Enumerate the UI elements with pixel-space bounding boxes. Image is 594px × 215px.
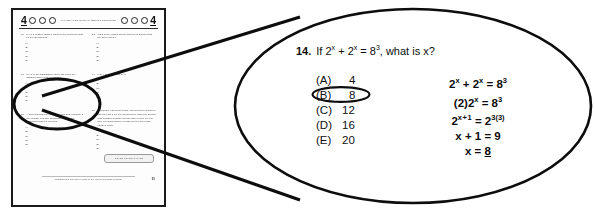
question-text: A bag contains only red, white, and blue…: [26, 113, 85, 124]
copyright-notice: Unauthorized copying or reuse of any par…: [42, 176, 135, 181]
final-answer-value: 8: [485, 145, 491, 157]
question-columns: 11. If x is a positive integer, which of…: [19, 33, 158, 172]
header-circle-icon: [131, 17, 138, 24]
work-line-5-answer: x = 8: [398, 144, 558, 159]
worked-solution: 2x + 2x = 83 (2)2x = 83 2x + 1 = 23(3) x…: [398, 73, 560, 159]
magnified-question-panel: 14.If 2x + 2x = 83, what is x? (A) 4 (B)…: [290, 44, 560, 169]
question-choices: (A) (B) (C) (D) (E): [21, 42, 85, 64]
question-choices: (A) (B) (C) (D) (E): [92, 42, 156, 64]
question-text-pre: If 2: [316, 45, 331, 57]
answer-choice-a[interactable]: (A) 4: [316, 73, 398, 88]
question-number: 13.: [21, 73, 24, 77]
question-block: 16. A company offers two plans. The firs…: [92, 109, 156, 162]
test-page-content: 4 MATHEMATICS LEVEL IC TESTING CONTINUED…: [13, 10, 164, 205]
choice-value: 4: [342, 73, 355, 88]
question-number: 14.: [92, 73, 95, 77]
page-number: 51: [152, 177, 155, 181]
header-circle-icon: [49, 17, 56, 24]
header-circle-icon: [39, 17, 46, 24]
choice-letter: (B): [316, 88, 342, 103]
page-footer: Unauthorized copying or reuse of any par…: [19, 176, 158, 181]
go-on-to-next-page-label: GO ON TO NEXT PAGE: [104, 154, 154, 163]
answer-area: (A) 4 (B) 8 (C) 12 (D) 16 (E) 20: [290, 73, 560, 159]
question-block: 11. If x is a positive integer, which of…: [21, 33, 85, 64]
screenshot-root: 4 MATHEMATICS LEVEL IC TESTING CONTINUED…: [0, 0, 594, 215]
question-choices: (A) (B) (C) (D) (E): [92, 129, 156, 151]
question-head: 14. If 2x + 2x = 83, what is x?: [92, 73, 156, 77]
choice-value: 12: [342, 103, 355, 118]
header-circles-right: [121, 17, 148, 24]
question-text: If x is a positive integer, which of the…: [26, 33, 85, 41]
choice-value: 8: [342, 88, 355, 103]
header-circle-icon: [121, 17, 128, 24]
question-text: A company offers two plans. The first pl…: [97, 109, 156, 128]
question-choices: (A) (B) (C) (D) (E): [21, 126, 85, 148]
choice-item: (E): [25, 99, 85, 103]
choice-item: (E): [96, 147, 156, 151]
question-choices: (A) (B) (C) (D) (E): [92, 78, 156, 100]
answer-choice-d[interactable]: (D) 16: [316, 118, 398, 133]
choice-letter: (E): [316, 133, 342, 148]
work-line-2: (2)2x = 83: [398, 92, 558, 111]
question-column-left: 11. If x is a positive integer, which of…: [21, 33, 85, 172]
section-header-title: MATHEMATICS LEVEL IC TESTING CONTINUED: [58, 19, 119, 22]
question-text: If 2x + 2x = 83, what is x?: [97, 73, 125, 77]
question-column-right: 12. What is the largest integer that is …: [92, 33, 156, 172]
choice-item: (E): [25, 59, 85, 63]
header-circle-icon: [141, 17, 148, 24]
question-head: 16. A company offers two plans. The firs…: [92, 109, 156, 128]
question-head: 12. What is the largest integer that is …: [92, 33, 156, 41]
question-head: 15. A bag contains only red, white, and …: [21, 113, 85, 124]
choice-item: (E): [96, 59, 156, 63]
question-number: 11.: [21, 33, 24, 37]
question-number: 12.: [92, 33, 95, 37]
section-header: 4 MATHEMATICS LEVEL IC TESTING CONTINUED…: [19, 15, 158, 29]
work-line-4: x + 1 = 9: [398, 129, 558, 144]
choice-letter: (D): [316, 118, 342, 133]
question-text-eq: = 8: [357, 45, 376, 57]
section-number-right: 4: [150, 15, 156, 26]
question-text: If x is in the highlighted region, the v…: [26, 73, 85, 81]
question-block: 12. What is the largest integer that is …: [92, 33, 156, 64]
answer-choice-b[interactable]: (B) 8: [316, 88, 398, 103]
magnified-question-number: 14.: [296, 45, 311, 57]
question-head: 13. If x is in the highlighted region, t…: [21, 73, 85, 81]
question-head: 11. If x is a positive integer, which of…: [21, 33, 85, 41]
header-circles-left: [29, 17, 56, 24]
question-text: What is the largest integer that is not …: [97, 33, 156, 41]
section-number-left: 4: [21, 15, 27, 26]
question-text-mid: + 2: [335, 45, 354, 57]
scanned-test-page: 4 MATHEMATICS LEVEL IC TESTING CONTINUED…: [11, 8, 166, 207]
choice-item: (E): [96, 96, 156, 100]
choice-letter: (C): [316, 103, 342, 118]
question-number: 15.: [21, 113, 24, 117]
question-block-highlighted: 13. If x is in the highlighted region, t…: [21, 73, 85, 104]
question-block-target: 14. If 2x + 2x = 83, what is x? (A) (B) …: [92, 73, 156, 100]
answer-choice-e[interactable]: (E) 20: [316, 133, 398, 148]
answer-choices-list: (A) 4 (B) 8 (C) 12 (D) 16 (E) 20: [290, 73, 398, 159]
question-block: 15. A bag contains only red, white, and …: [21, 113, 85, 148]
choice-value: 16: [342, 118, 355, 133]
question-text-post: , what is x?: [380, 45, 435, 57]
header-circle-icon: [29, 17, 36, 24]
magnified-question-text: 14.If 2x + 2x = 83, what is x?: [296, 44, 560, 57]
question-choices: (A) (B) (C) (D) (E): [21, 82, 85, 104]
choice-letter: (A): [316, 73, 342, 88]
work-line-1: 2x + 2x = 83: [398, 73, 558, 92]
answer-choice-c[interactable]: (C) 12: [316, 103, 398, 118]
question-number: 16.: [92, 109, 95, 113]
choice-value: 20: [342, 133, 355, 148]
work-line-3: 2x + 1 = 23(3): [398, 110, 558, 129]
choice-item: (E): [25, 143, 85, 147]
